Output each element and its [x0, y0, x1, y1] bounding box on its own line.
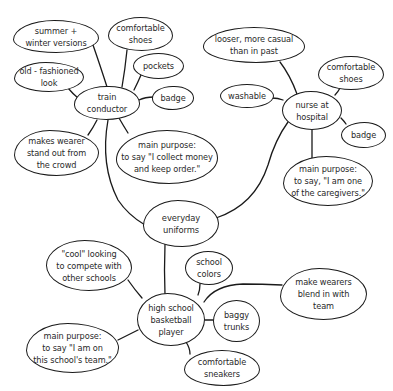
- branch-node-nurse-at-hospital: nurse at hospital: [282, 91, 342, 130]
- link-nurse-center: [216, 122, 288, 218]
- link-player-p2: [198, 284, 200, 295]
- link-player-p1: [128, 280, 142, 298]
- leaf-node-main-purpose-train: main purpose: to say "I collect money an…: [116, 130, 218, 184]
- link-train-t2: [122, 50, 127, 87]
- leaf-node-main-purpose-player: main purpose: to say "I am on this schoo…: [26, 323, 119, 373]
- link-nurse-n3: [272, 98, 283, 100]
- center-node-everyday-uniforms: everyday uniforms: [143, 200, 219, 247]
- link-player-p6: [186, 342, 190, 354]
- leaf-node-summer-winter-versions: summer + winter versions: [13, 20, 99, 53]
- link-nurse-n4: [341, 118, 346, 124]
- leaf-node-make-wearers-blend-in: make wearers blend in with team: [280, 268, 367, 320]
- branch-node-basketball-player: high school basketball player: [137, 293, 205, 346]
- leaf-node-comfortable-sneakers: comfortable sneakers: [184, 350, 260, 386]
- leaf-node-school-colors: school colors: [185, 251, 233, 285]
- leaf-node-badge-train: badge: [152, 86, 194, 110]
- link-player-p3: [204, 284, 282, 302]
- link-center-player: [165, 244, 166, 295]
- link-player-p5: [118, 330, 138, 340]
- branch-node-train-conductor: train conductor: [74, 86, 140, 120]
- leaf-node-old-fashioned-look: old - fashioned look: [14, 62, 84, 92]
- link-train-t7: [119, 118, 128, 133]
- link-train-t1: [93, 45, 108, 90]
- leaf-node-baggy-trunks: baggy trunks: [213, 300, 260, 342]
- leaf-node-pockets: pockets: [133, 53, 184, 79]
- leaf-node-comfortable-shoes-train: comfortable shoes: [108, 17, 173, 51]
- link-nurse-n1: [280, 62, 297, 94]
- link-train-t3: [134, 75, 141, 90]
- leaf-node-main-purpose-nurse: main purpose: to say, "I am one of the c…: [283, 156, 373, 206]
- leaf-node-washable: washable: [220, 84, 274, 108]
- leaf-node-badge-nurse: badge: [341, 122, 386, 148]
- leaf-node-cool-looking: "cool" looking to compete with other sch…: [46, 240, 132, 291]
- leaf-node-makes-wearer-stand-out: makes wearer stand out from the crowd: [14, 130, 99, 176]
- mind-map-canvas: everyday uniforms train conductor summer…: [0, 0, 393, 391]
- leaf-node-comfortable-shoes-nurse: comfortable shoes: [318, 56, 384, 90]
- link-train-t6: [88, 120, 97, 135]
- leaf-node-looser-more-casual: looser, more casual than in past: [203, 27, 305, 63]
